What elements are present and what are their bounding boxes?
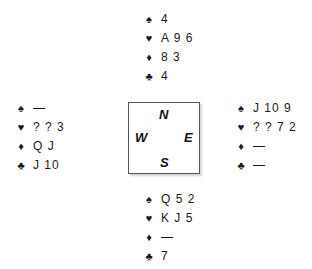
east-clubs: — (253, 156, 266, 175)
north-hand: ♠4 ♥A 9 6 ♦8 3 ♣4 (137, 10, 193, 86)
east-spades: J 10 9 (253, 99, 292, 118)
west-diamonds-row: ♦Q J (9, 137, 65, 156)
south-hand: ♠Q 5 2 ♥K J 5 ♦— ♣7 (137, 190, 195, 266)
spade-icon: ♠ (9, 99, 33, 118)
south-spades: Q 5 2 (161, 190, 195, 209)
south-diamonds-row: ♦— (137, 228, 195, 247)
north-hearts-row: ♥A 9 6 (137, 29, 193, 48)
club-icon: ♣ (229, 156, 253, 175)
east-hearts: ? ? 7 2 (253, 118, 297, 137)
compass-east: E (184, 130, 193, 145)
north-hearts: A 9 6 (161, 29, 193, 48)
north-spades-row: ♠4 (137, 10, 193, 29)
north-clubs-row: ♣4 (137, 67, 193, 86)
compass-north: N (159, 107, 168, 122)
east-diamonds-row: ♦— (229, 137, 297, 156)
west-hand: ♠— ♥? ? 3 ♦Q J ♣J 10 (9, 99, 65, 175)
compass-west: W (135, 130, 147, 145)
north-clubs: 4 (161, 67, 169, 86)
spade-icon: ♠ (229, 99, 253, 118)
spade-icon: ♠ (137, 190, 161, 209)
west-diamonds: Q J (33, 137, 55, 156)
diamond-icon: ♦ (229, 137, 253, 156)
heart-icon: ♥ (9, 118, 33, 137)
west-spades-row: ♠— (9, 99, 65, 118)
east-diamonds: — (253, 137, 266, 156)
west-clubs-row: ♣J 10 (9, 156, 65, 175)
club-icon: ♣ (137, 67, 161, 86)
west-spades: — (33, 99, 46, 118)
spade-icon: ♠ (137, 10, 161, 29)
east-spades-row: ♠J 10 9 (229, 99, 297, 118)
north-spades: 4 (161, 10, 169, 29)
diamond-icon: ♦ (137, 48, 161, 67)
heart-icon: ♥ (137, 29, 161, 48)
diamond-icon: ♦ (137, 228, 161, 247)
compass-box: N W E S (128, 102, 200, 174)
south-hearts: K J 5 (161, 209, 193, 228)
south-diamonds: — (161, 228, 174, 247)
north-diamonds-row: ♦8 3 (137, 48, 193, 67)
south-clubs-row: ♣7 (137, 247, 195, 266)
club-icon: ♣ (137, 247, 161, 266)
south-clubs: 7 (161, 247, 169, 266)
east-hand: ♠J 10 9 ♥? ? 7 2 ♦— ♣— (229, 99, 297, 175)
heart-icon: ♥ (137, 209, 161, 228)
heart-icon: ♥ (229, 118, 253, 137)
west-clubs: J 10 (33, 156, 60, 175)
south-spades-row: ♠Q 5 2 (137, 190, 195, 209)
south-hearts-row: ♥K J 5 (137, 209, 195, 228)
east-clubs-row: ♣— (229, 156, 297, 175)
diamond-icon: ♦ (9, 137, 33, 156)
compass-south: S (160, 155, 169, 170)
club-icon: ♣ (9, 156, 33, 175)
north-diamonds: 8 3 (161, 48, 181, 67)
east-hearts-row: ♥? ? 7 2 (229, 118, 297, 137)
west-hearts-row: ♥? ? 3 (9, 118, 65, 137)
west-hearts: ? ? 3 (33, 118, 65, 137)
